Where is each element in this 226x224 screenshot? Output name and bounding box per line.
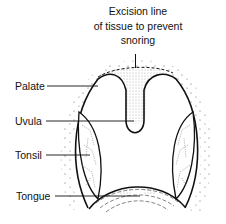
label-tongue: Tongue (16, 190, 50, 202)
label-palate: Palate (15, 80, 45, 92)
right-tonsil (173, 112, 195, 199)
left-tonsil (78, 112, 101, 199)
tongue (89, 187, 185, 212)
label-uvula: Uvula (15, 115, 42, 127)
label-tonsil: Tonsil (15, 149, 42, 161)
excised-tissue-region (100, 68, 170, 124)
